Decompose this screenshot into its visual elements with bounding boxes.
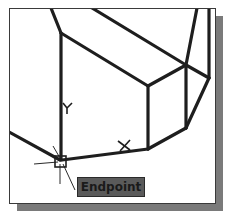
edge-top-left: [51, 8, 61, 33]
endpoint-snap-tooltip: Endpoint: [77, 177, 145, 197]
crosshair-cursor-icon: [34, 146, 75, 190]
y-axis-marker-icon: [63, 103, 72, 114]
edge-upper-face-left: [61, 33, 148, 86]
edge-right-lower-slant: [186, 78, 209, 128]
x-axis-marker-icon: [118, 140, 130, 151]
edge-bottom-right: [148, 128, 186, 149]
edge-top-right-slant: [186, 8, 197, 65]
edge-bottom-middle: [62, 149, 148, 160]
edge-upper-face-right: [148, 65, 186, 86]
edge-bottom-left: [9, 132, 60, 160]
